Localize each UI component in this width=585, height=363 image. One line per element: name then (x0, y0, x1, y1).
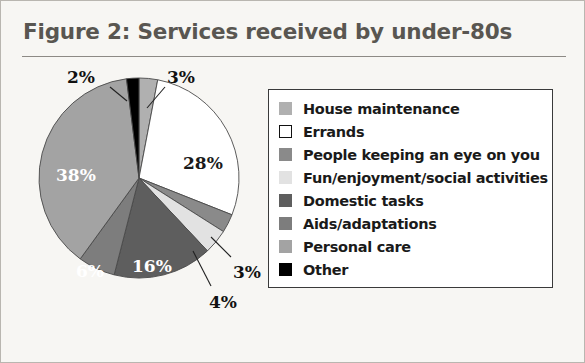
pie-value-label: 2% (67, 67, 95, 87)
pie-value-label: 16% (132, 256, 172, 276)
pie-value-label: 28% (183, 153, 223, 173)
legend-item[interactable]: Errands (279, 120, 552, 143)
figure-container: Figure 2: Services received by under-80s… (0, 0, 585, 363)
pie-chart: 2%3%28%38%6%16%3%4% (15, 61, 265, 311)
figure-title: Figure 2: Services received by under-80s (23, 19, 512, 44)
legend-item-label: Errands (303, 124, 364, 140)
legend-swatch-icon (279, 263, 292, 276)
legend-item-label: Domestic tasks (303, 193, 424, 209)
legend-item[interactable]: Personal care (279, 235, 552, 258)
legend-item-label: House maintenance (303, 101, 460, 117)
chart-legend: House maintenanceErrandsPeople keeping a… (268, 89, 553, 288)
pie-value-label: 3% (233, 262, 261, 282)
legend-item-label: Fun/enjoyment/social activities (303, 170, 548, 186)
legend-item[interactable]: Other (279, 258, 552, 281)
legend-item[interactable]: Aids/adaptations (279, 212, 552, 235)
legend-swatch-icon (279, 102, 292, 115)
legend-swatch-icon (279, 125, 292, 138)
legend-item[interactable]: Fun/enjoyment/social activities (279, 166, 552, 189)
legend-item-label: People keeping an eye on you (303, 147, 540, 163)
pie-value-label: 38% (56, 165, 96, 185)
pie-value-label: 6% (76, 261, 104, 281)
legend-swatch-icon (279, 148, 292, 161)
legend-item-label: Other (303, 262, 348, 278)
legend-swatch-icon (279, 217, 292, 230)
title-divider (22, 56, 566, 57)
pie-value-label: 4% (209, 292, 237, 312)
legend-swatch-icon (279, 194, 292, 207)
pie-value-label: 3% (167, 67, 195, 87)
legend-item-label: Personal care (303, 239, 411, 255)
legend-swatch-icon (279, 171, 292, 184)
legend-item[interactable]: Domestic tasks (279, 189, 552, 212)
legend-item-label: Aids/adaptations (303, 216, 437, 232)
legend-item[interactable]: People keeping an eye on you (279, 143, 552, 166)
legend-item[interactable]: House maintenance (279, 97, 552, 120)
legend-swatch-icon (279, 240, 292, 253)
